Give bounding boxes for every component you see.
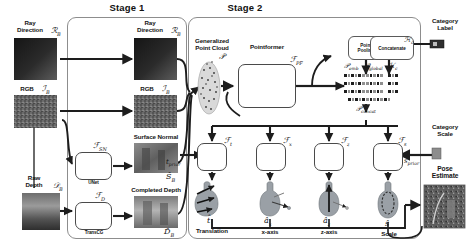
raw-depth-input-label: RawDepth: [12, 175, 56, 188]
x-axis-decoder[interactable]: [256, 143, 286, 171]
ray-direction-output-symbol: ℛB: [171, 26, 181, 37]
generalized-point-cloud-label: GeneralizedPoint Cloud: [184, 38, 240, 51]
category-scale-caption: CategoryScale: [420, 124, 470, 137]
p-global-symbol: 𝒫global: [364, 62, 383, 71]
h-c-symbol: ℋc: [388, 62, 397, 71]
p-global-features: [366, 90, 383, 93]
surface-normal-symbol: ŜB: [166, 172, 175, 183]
completed-depth-label: Completed Depth: [120, 187, 192, 194]
translation-output-label: Translation: [186, 228, 238, 235]
transcg-operator: ℱD: [95, 191, 105, 202]
x-axis-output-label: x-axis: [250, 229, 290, 236]
rgb-input-symbol: ℐB: [42, 84, 50, 95]
stage2-title: Stage 2: [205, 3, 285, 13]
p-global-features: [366, 82, 383, 85]
ray-direction-input-symbol: ℛB: [51, 26, 61, 37]
rgb-output-label: RGB: [132, 86, 162, 93]
p-emb-symbol: 𝒫emb: [344, 62, 359, 71]
unet-caption: UNet: [75, 181, 112, 186]
scale-output-symbol: ŝ: [385, 219, 389, 228]
p-concat-features: [348, 98, 390, 101]
z-axis-decoder[interactable]: [314, 143, 344, 171]
translation-decoder[interactable]: [197, 143, 227, 171]
h-c-features: [388, 90, 398, 93]
transcg-caption: TransCG: [73, 231, 115, 236]
raw-depth-input-symbol: 𝒟B: [53, 181, 63, 192]
ray-direction-input-label: RayDirection: [6, 20, 54, 33]
stage1-title: Stage 1: [87, 3, 167, 13]
rgb-output-symbol: ℐB: [162, 84, 170, 95]
generalized-point-cloud-symbol: 𝒫: [219, 52, 225, 62]
h-c-features: [388, 74, 398, 77]
unet-operator: ℱSN: [93, 141, 107, 152]
category-label-symbol: ℋc: [404, 36, 414, 45]
pointformer-module[interactable]: [238, 64, 296, 108]
pose-estimate-label: PoseEstimate: [418, 165, 472, 179]
figure-canvas: Stage 1 Stage 2: [0, 0, 472, 246]
z-axis-output-symbol: âz: [323, 216, 330, 227]
scale-output-label: Scale: [370, 231, 408, 238]
scale-decoder[interactable]: [373, 143, 403, 171]
category-label-caption: CategoryLabel: [421, 18, 469, 31]
z-axis-output-label: z-axis: [309, 229, 349, 236]
t-prior-symbol: tprior: [166, 158, 180, 167]
p-emb-features: [344, 74, 365, 77]
p-global-features: [366, 74, 383, 77]
unet-module[interactable]: [75, 152, 112, 180]
ray-direction-output-label: RayDirection: [126, 20, 174, 33]
pointformer-operator: ℱPF: [290, 55, 303, 66]
x-axis-output-symbol: âx: [264, 216, 272, 227]
p-emb-features: [344, 82, 365, 85]
surface-normal-label: Surface Normal: [122, 134, 190, 141]
rgb-input-label: RGB: [12, 86, 42, 93]
translation-output-symbol: t̂: [207, 216, 210, 225]
p-concat-symbol: 𝒫concat: [356, 105, 376, 114]
p-emb-features: [344, 90, 365, 93]
pointformer-label: Pointformer: [236, 44, 298, 51]
category-scale-symbol: sprior: [404, 157, 419, 166]
completed-depth-symbol: D̂B: [164, 227, 174, 238]
transcg-module[interactable]: [75, 202, 112, 230]
h-c-features: [388, 82, 398, 85]
